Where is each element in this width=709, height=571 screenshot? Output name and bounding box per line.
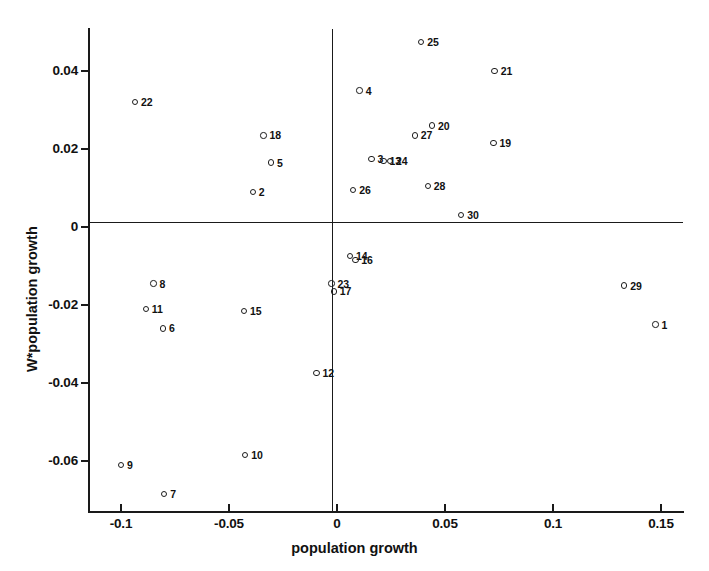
data-point-label: 8 [159,278,165,290]
data-point-marker [621,282,627,288]
x-axis-tick-label: 0.05 [405,516,485,531]
data-point-marker [458,212,464,218]
data-point-label: 12 [322,367,333,379]
x-axis-tick [336,504,338,512]
vertical-zero-reference-line [332,29,334,511]
y-axis-tick [81,226,89,228]
data-point-label: 23 [338,278,349,290]
data-point-label: 11 [152,303,163,315]
x-axis-title: population growth [0,540,709,556]
data-point-label: 29 [630,280,641,292]
data-point-label: 9 [127,459,133,471]
data-point-label: 2 [259,186,265,198]
data-point-marker [652,321,658,327]
x-axis-tick-label: -0.05 [189,516,269,531]
data-point-label: 4 [366,85,372,97]
data-point-marker [260,132,266,138]
data-point-marker [425,183,431,189]
y-axis-tick [81,70,89,72]
x-axis-tick [228,504,230,512]
data-point-marker [118,462,124,468]
x-axis-tick-label: 0.15 [621,516,701,531]
data-point-label: 19 [500,137,511,149]
y-axis-tick-label: 0.04 [53,63,78,78]
data-point-marker [328,280,334,286]
x-axis-tick-label: 0.1 [513,516,593,531]
data-point-marker [132,99,138,105]
data-point-label: 16 [361,254,372,266]
data-point-marker [352,257,358,263]
x-axis-tick [552,504,554,512]
data-point-label: 10 [251,449,262,461]
data-point-marker [490,140,496,146]
y-axis-tick [81,304,89,306]
data-point-marker [160,325,166,331]
data-point-marker [242,452,248,458]
y-axis-tick-label: 0.02 [53,141,78,156]
y-axis-title: W*population growth [24,226,40,372]
y-axis-tick [81,460,89,462]
scatter-plot: 0.040.020-0.02-0.04-0.06 -0.1-0.0500.050… [0,0,709,571]
y-axis-tick [81,382,89,384]
data-point-label: 7 [170,488,176,500]
y-axis-tick-label: 0 [71,219,78,234]
data-point-marker [380,158,386,164]
y-axis-tick-label: -0.04 [48,375,78,390]
data-point-label: 22 [141,96,152,108]
data-point-marker [368,156,374,162]
data-point-marker [268,159,274,165]
data-point-marker [161,491,167,497]
x-axis-tick [444,504,446,512]
data-point-marker [143,306,149,312]
data-point-marker [313,370,319,376]
data-point-label: 28 [434,180,445,192]
data-point-marker [241,308,247,314]
data-point-label: 24 [396,155,407,167]
data-point-label: 21 [501,65,512,77]
data-point-marker [331,288,337,294]
data-point-marker [150,280,156,286]
data-point-label: 15 [250,305,261,317]
data-point-label: 26 [359,184,370,196]
y-axis-tick-label: -0.06 [48,453,78,468]
data-point-marker [356,87,362,93]
data-point-marker [350,187,356,193]
x-axis-tick-label: -0.1 [81,516,161,531]
y-axis-spine [88,28,90,512]
y-axis-tick-label: -0.02 [48,297,78,312]
data-point-label: 20 [438,120,449,132]
data-point-label: 5 [277,157,283,169]
x-axis-tick [120,504,122,512]
data-point-marker [412,132,418,138]
data-point-marker [491,68,497,74]
data-point-label: 30 [467,209,478,221]
data-point-label: 1 [662,319,668,331]
data-point-marker [418,39,424,45]
y-axis-tick [81,148,89,150]
data-point-label: 27 [421,129,432,141]
data-point-marker [429,122,435,128]
data-point-label: 18 [270,129,281,141]
x-axis-tick-label: 0 [297,516,377,531]
x-axis-tick [660,504,662,512]
data-point-label: 6 [169,322,175,334]
data-point-label: 25 [427,36,438,48]
x-axis-spine [88,511,684,513]
data-point-marker [250,189,256,195]
data-point-marker [387,158,393,164]
horizontal-zero-reference-line [89,222,683,224]
